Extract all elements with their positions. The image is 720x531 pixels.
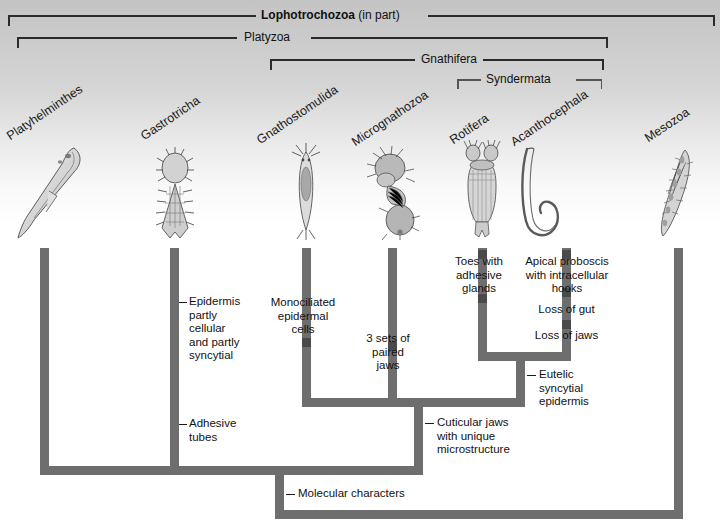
clade-label-platyzoa: Platyzoa [239, 29, 295, 45]
taxon-label-micrognathozoa: Micrognathozoa [349, 88, 431, 149]
bracket-bar [483, 59, 604, 61]
bracket-left-tick [8, 15, 10, 26]
clade-label-lophotrochozoa: Lophotrochozoa (in part) [256, 7, 405, 23]
clade-name-lophotrochozoa: Lophotrochozoa [261, 8, 355, 22]
branch-mesozoa [674, 248, 683, 515]
organism-illustration-mesozoa [655, 144, 703, 242]
taxon-label-platyhelminthes: Platyhelminthes [4, 82, 85, 143]
character-label-three-sets-jaws: 3 sets of paired jaws [346, 332, 430, 373]
character-label-toes: Toes with adhesive glands [437, 255, 521, 296]
node-bar-lophotrochozoa-root [275, 510, 683, 519]
bracket-bar [428, 15, 715, 17]
node-bar-platyzoa [40, 466, 423, 475]
character-label-eutelic: Eutelic syncytial epidermis [539, 368, 589, 409]
character-label-cuticular-jaws: Cuticular jaws with unique microstructur… [437, 416, 510, 457]
organism-illustration-gnathostomulida [288, 142, 324, 242]
leader-line-epidermis [179, 302, 187, 303]
leader-line-adhesive-tubes [179, 424, 187, 425]
organism-illustration-micrognathozoa [364, 146, 422, 240]
bracket-right-tick [602, 59, 604, 70]
character-label-molecular: Molecular characters [298, 487, 405, 501]
leader-line-eutelic [527, 375, 536, 376]
character-label-loss-of-gut: Loss of gut [524, 303, 609, 317]
organism-illustration-platyhelminthes [12, 142, 90, 242]
taxon-label-gastrotricha: Gastrotricha [138, 93, 202, 143]
node-stem-gnathifera [414, 398, 423, 474]
bracket-right-tick [713, 15, 715, 26]
organism-illustration-gastrotricha [152, 146, 198, 242]
leader-line-cuticular-jaws [425, 423, 434, 424]
node-stem-syndermata [516, 352, 525, 398]
bracket-left-tick [17, 37, 19, 48]
cladogram-figure: Lophotrochozoa (in part) Platyzoa Gnathi… [0, 0, 720, 531]
bracket-bar [311, 37, 608, 39]
character-label-epidermis: Epidermis partly cellular and partly syn… [189, 295, 240, 363]
bracket-right-tick [606, 37, 608, 48]
bracket-bar [270, 59, 415, 61]
organism-illustration-rotifera [461, 140, 503, 242]
character-label-adhesive-tubes: Adhesive tubes [189, 417, 236, 444]
clade-label-syndermata: Syndermata [481, 71, 556, 87]
character-tick-monociliated [302, 338, 311, 347]
character-label-loss-of-jaws: Loss of jaws [524, 329, 609, 343]
organism-illustration-acanthocephala [516, 145, 566, 243]
branch-micrognathozoa [388, 248, 397, 398]
taxon-label-mesozoa: Mesozoa [642, 105, 692, 145]
bracket-left-tick [457, 79, 459, 89]
leader-line-molecular [286, 494, 295, 495]
character-tick-loss-of-jaws [562, 320, 571, 329]
bracket-bar [576, 79, 602, 81]
taxon-label-acanthocephala: Acanthocephala [508, 87, 590, 149]
bracket-bar [8, 15, 256, 17]
branch-gastrotricha [170, 248, 179, 474]
bracket-bar [457, 79, 481, 81]
bracket-right-tick [601, 79, 603, 89]
taxon-label-gnathostomulida: Gnathostomulida [254, 83, 340, 147]
bracket-left-tick [270, 59, 272, 70]
node-stem-platyzoa [275, 466, 284, 515]
character-label-apical-proboscis: Apical proboscis with intracellular hook… [510, 255, 624, 296]
character-label-monociliated: Monociliated epidermal cells [248, 296, 358, 337]
branch-platyhelminthes [40, 248, 49, 474]
bracket-bar [17, 37, 237, 39]
clade-suffix-lophotrochozoa: (in part) [355, 8, 400, 22]
clade-label-gnathifera: Gnathifera [416, 51, 482, 67]
